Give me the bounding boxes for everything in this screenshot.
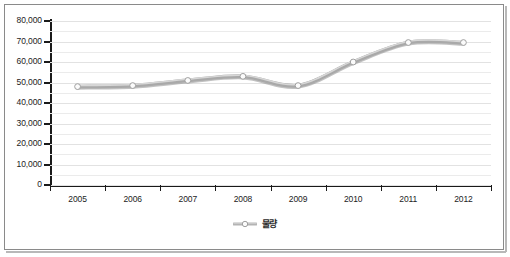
legend-label-volume: 물량 — [262, 217, 278, 230]
category-axis-tick — [50, 185, 51, 191]
value-axis-label: 10,000 — [4, 159, 42, 169]
value-axis-label: 60,000 — [4, 56, 42, 66]
value-axis-label: 30,000 — [4, 118, 42, 128]
data-point-marker — [130, 83, 136, 89]
legend-line-marker-icon — [233, 219, 257, 229]
value-axis-label: 40,000 — [4, 97, 42, 107]
category-axis-label: 2007 — [160, 194, 215, 204]
category-axis-tick — [436, 185, 437, 191]
category-axis-tick — [215, 185, 216, 191]
category-axis-tick — [381, 185, 382, 191]
series-line — [78, 41, 464, 87]
category-axis-label: 2012 — [436, 194, 491, 204]
category-axis-tick — [326, 185, 327, 191]
frame-shadow-bottom — [6, 251, 506, 253]
data-point-marker — [185, 78, 191, 84]
category-axis-tick — [491, 185, 492, 191]
data-point-marker — [75, 84, 81, 90]
category-axis-tick — [105, 185, 106, 191]
data-point-marker — [295, 83, 301, 89]
category-axis-label: 2006 — [105, 194, 160, 204]
data-point-marker — [405, 40, 411, 46]
category-axis-label: 2010 — [326, 194, 381, 204]
data-point-marker — [461, 40, 467, 46]
data-point-marker — [240, 73, 246, 79]
category-axis-label: 2008 — [215, 194, 270, 204]
data-point-marker — [350, 59, 356, 65]
chart-legend: 물량 — [5, 217, 505, 230]
value-axis-label: 0 — [4, 179, 42, 189]
frame-shadow-right — [505, 6, 507, 252]
series-volume — [50, 21, 491, 185]
category-axis-label: 2009 — [271, 194, 326, 204]
plot-area — [50, 21, 491, 185]
value-axis-label: 70,000 — [4, 36, 42, 46]
value-axis-label: 20,000 — [4, 138, 42, 148]
chart-frame: 010,00020,00030,00040,00050,00060,00070,… — [4, 4, 504, 250]
value-axis-labels: 010,00020,00030,00040,00050,00060,00070,… — [5, 5, 42, 251]
category-axis-tick — [271, 185, 272, 191]
category-axis-label: 2005 — [50, 194, 105, 204]
category-axis-label: 2011 — [381, 194, 436, 204]
value-axis-label: 50,000 — [4, 77, 42, 87]
value-axis-label: 80,000 — [4, 15, 42, 25]
series-line — [78, 40, 464, 86]
category-axis-tick — [160, 185, 161, 191]
